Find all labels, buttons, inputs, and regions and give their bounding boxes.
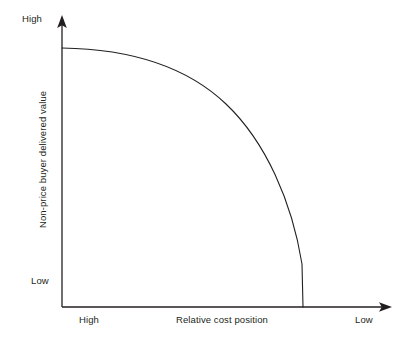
chart-plot-area (0, 0, 415, 349)
y-axis-title: Non-price buyer delivered value (38, 91, 49, 228)
x-axis-low-label: Low (355, 315, 373, 326)
frontier-curve (62, 48, 303, 307)
x-axis-high-label: High (79, 315, 99, 326)
x-axis-title: Relative cost position (176, 315, 268, 326)
y-axis-low-label: Low (31, 276, 49, 287)
chart-figure: High Low Non-price buyer delivered value… (0, 0, 415, 349)
y-axis-high-label: High (22, 14, 42, 25)
